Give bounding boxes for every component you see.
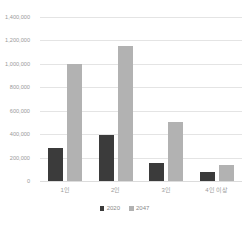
y-axis-tick-label: 400,000	[0, 131, 30, 137]
bar-group	[195, 17, 239, 181]
chart-title	[0, 0, 249, 4]
y-axis-tick-label: 600,000	[0, 108, 30, 114]
legend-swatch-icon	[129, 206, 134, 211]
y-axis-tick-label: 0	[0, 178, 30, 184]
bar-2020-2인[interactable]	[99, 135, 114, 181]
bar-2020-3인[interactable]	[149, 163, 164, 181]
bars-layer	[40, 17, 242, 181]
bar-group	[94, 17, 138, 181]
bar-group	[144, 17, 188, 181]
bar-2047-4인 이상[interactable]	[219, 165, 234, 181]
bar-2020-4인 이상[interactable]	[200, 172, 215, 181]
legend-label: 2020	[107, 205, 120, 212]
legend-item-2020[interactable]: 2020	[100, 205, 120, 212]
x-axis-tick-label: 2인	[94, 186, 138, 194]
bar-2047-1인[interactable]	[67, 64, 82, 181]
x-axis-labels: 1인2인3인4인 이상	[40, 186, 242, 194]
y-axis-tick-label: 1,400,000	[0, 14, 30, 20]
y-axis-tick-label: 200,000	[0, 155, 30, 161]
y-axis-tick-label: 800,000	[0, 84, 30, 90]
bar-2020-1인[interactable]	[48, 148, 63, 181]
bar-chart: 0200,000400,000600,000800,0001,000,0001,…	[0, 0, 249, 229]
chart-legend: 20202047	[0, 205, 249, 212]
legend-label: 2047	[136, 205, 149, 212]
gridline	[40, 181, 242, 182]
x-axis-tick-label: 3인	[144, 186, 188, 194]
bar-2047-3인[interactable]	[168, 122, 183, 181]
y-axis-tick-label: 1,000,000	[0, 61, 30, 67]
x-axis-tick-label: 4인 이상	[195, 186, 239, 194]
y-axis-tick-label: 1,200,000	[0, 37, 30, 43]
legend-swatch-icon	[100, 206, 105, 211]
x-axis-tick-label: 1인	[43, 186, 87, 194]
bar-group	[43, 17, 87, 181]
legend-item-2047[interactable]: 2047	[129, 205, 149, 212]
bar-2047-2인[interactable]	[118, 46, 133, 181]
